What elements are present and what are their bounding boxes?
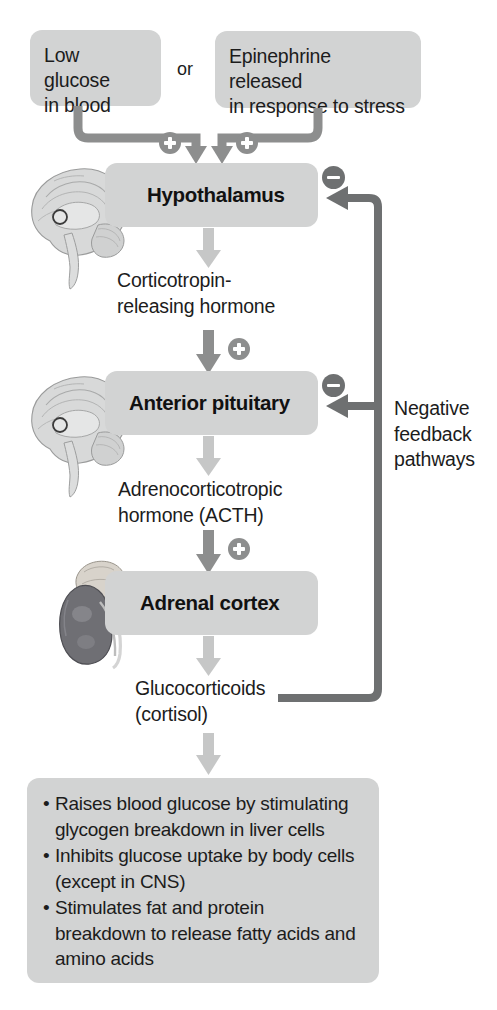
stimulus-low-glucose-line1: Low glucose — [44, 43, 147, 93]
plus-badge-hypothalamus-left — [159, 132, 181, 154]
stimulus-epinephrine-line1: Epinephrine released — [229, 44, 407, 94]
effect-3-line-2: breakdown to release fatty acids and — [55, 923, 355, 944]
effect-3-line-3: amino acids — [55, 948, 154, 969]
list-item: • Inhibits glucose uptake by body cells … — [43, 843, 373, 894]
effect-text: Raises blood glucose by stimulating glyc… — [55, 791, 373, 842]
stimulus-box-epinephrine: Epinephrine released in response to stre… — [215, 31, 421, 108]
conjunction-or: or — [177, 59, 193, 80]
effect-3-line-1: Stimulates fat and protein — [55, 897, 264, 918]
negative-feedback-label: Negative feedback pathways — [394, 396, 475, 473]
plus-badge-hypothalamus-right — [236, 132, 258, 154]
negative-feedback-line1: Negative — [394, 396, 475, 422]
effect-text: Inhibits glucose uptake by body cells (e… — [55, 843, 373, 894]
effects-list: • Raises blood glucose by stimulating gl… — [43, 791, 373, 973]
bullet-icon: • — [43, 895, 55, 972]
bullet-icon: • — [43, 843, 55, 894]
effect-2-line-2: (except in CNS) — [55, 871, 185, 892]
effect-2-line-1: Inhibits glucose uptake by body cells — [55, 845, 354, 866]
effect-text: Stimulates fat and protein breakdown to … — [55, 895, 373, 972]
negative-feedback-line3: pathways — [394, 447, 475, 473]
list-item: • Raises blood glucose by stimulating gl… — [43, 791, 373, 842]
diagram-canvas: Low glucose in blood or Epinephrine rele… — [0, 0, 497, 1010]
effect-1-line-2: glycogen breakdown in liver cells — [55, 819, 325, 840]
arrow-glucocorticoids-to-effects — [196, 733, 226, 777]
bullet-icon: • — [43, 791, 55, 842]
stimulus-box-low-glucose: Low glucose in blood — [30, 30, 161, 106]
list-item: • Stimulates fat and protein breakdown t… — [43, 895, 373, 972]
negative-feedback-line2: feedback — [394, 422, 475, 448]
effect-1-line-1: Raises blood glucose by stimulating — [55, 793, 348, 814]
